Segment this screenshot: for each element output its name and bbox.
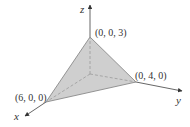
vertex-label-y-intercept: (0, 4, 0) (135, 70, 167, 82)
vertex-label-x-intercept: (6, 0, 0) (15, 92, 47, 104)
y-axis-label: y (175, 94, 181, 106)
tetrahedron-diagram: z y x (0, 0, 3) (0, 4, 0) (6, 0, 0) (0, 0, 190, 127)
x-axis (25, 102, 46, 116)
x-axis-label: x (13, 110, 19, 122)
z-axis-label: z (79, 3, 85, 15)
y-axis (136, 82, 182, 91)
plane-face (46, 37, 136, 102)
vertex-label-z-intercept: (0, 0, 3) (95, 27, 127, 39)
